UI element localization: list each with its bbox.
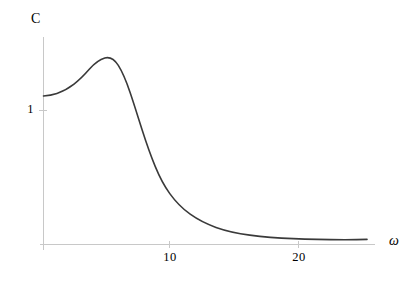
x-tick-label-20: 20 [286,251,312,264]
x-tick-label-10: 10 [157,251,183,264]
plot-canvas [0,0,417,283]
y-axis-title: C [31,12,40,26]
resonance-plot-figure: C ω 1 10 20 [0,0,417,283]
response-curve [44,58,368,240]
y-tick-label-1: 1 [22,103,34,116]
x-axis-title: ω [389,234,399,248]
